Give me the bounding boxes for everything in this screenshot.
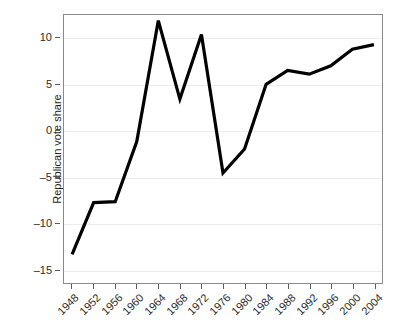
republican-vote-share-line	[72, 21, 374, 255]
x-tick-mark	[353, 284, 354, 289]
x-tick-mark	[136, 284, 137, 289]
y-tick-mark	[55, 223, 60, 224]
x-tick-mark	[115, 284, 116, 289]
y-tick-label: –10	[34, 218, 52, 229]
y-tick-label: 5	[46, 78, 52, 89]
x-tick-mark	[180, 284, 181, 289]
y-axis-title-area: Republican vote share	[0, 14, 22, 284]
x-tick-mark	[223, 284, 224, 289]
plot-area	[63, 14, 383, 284]
x-tick-mark	[310, 284, 311, 289]
y-tick-label: –5	[40, 171, 52, 182]
y-tick-label: 10	[40, 32, 52, 43]
x-tick-mark	[375, 284, 376, 289]
x-tick-mark	[288, 284, 289, 289]
chart-figure: Republican vote share 1050–5–10–15 19481…	[0, 0, 412, 335]
y-tick-mark	[55, 177, 60, 178]
y-tick-mark	[55, 130, 60, 131]
y-tick-mark	[55, 84, 60, 85]
y-axis-tick-labels: 1050–5–10–15	[22, 14, 60, 284]
x-tick-mark	[71, 284, 72, 289]
y-tick-label: –15	[34, 265, 52, 276]
line-series	[64, 15, 382, 283]
x-tick-mark	[331, 284, 332, 289]
y-tick-mark	[55, 270, 60, 271]
x-tick-mark	[201, 284, 202, 289]
y-tick-label: 0	[46, 125, 52, 136]
x-tick-mark	[245, 284, 246, 289]
y-tick-mark	[55, 37, 60, 38]
x-tick-mark	[93, 284, 94, 289]
x-tick-mark	[158, 284, 159, 289]
x-tick-mark	[266, 284, 267, 289]
